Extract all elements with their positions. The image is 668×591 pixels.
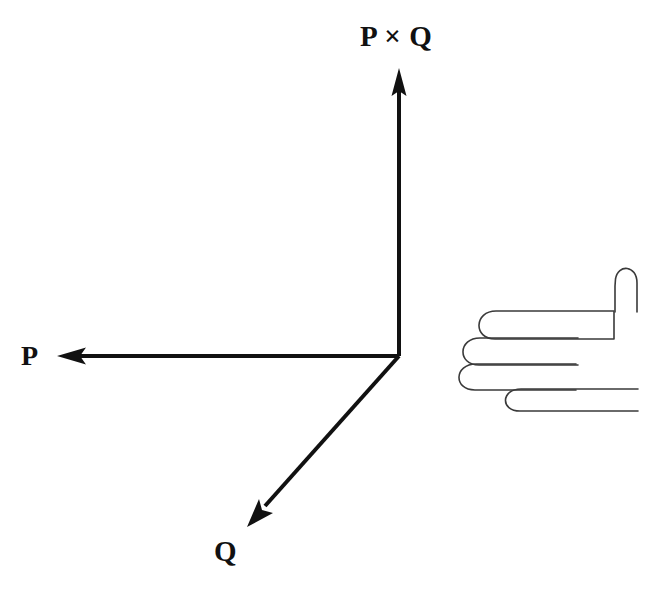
middle-finger-outline	[463, 338, 578, 365]
vector-arrows	[57, 68, 407, 527]
diagram-canvas	[0, 0, 668, 591]
right-hand-rule-diagram: P × Q P Q	[0, 0, 668, 591]
vector-q-label: Q	[214, 537, 237, 566]
ring-finger-outline	[459, 364, 576, 390]
vector-p-arrow	[57, 348, 399, 365]
index-finger-outline	[479, 311, 614, 339]
vector-q-shaft	[265, 356, 399, 506]
right-hand-illustration	[459, 268, 638, 411]
thumb-outline	[615, 268, 637, 312]
cross-product-label: P × Q	[360, 22, 432, 51]
vector-q-arrow	[247, 356, 399, 527]
pinky-finger-outline	[505, 389, 638, 411]
vector-p-label: P	[21, 342, 38, 370]
cross-product-vector-arrow	[392, 68, 407, 356]
